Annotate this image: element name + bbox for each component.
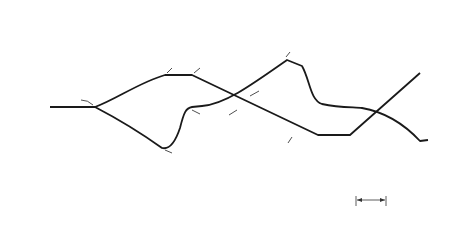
torque-curve xyxy=(50,73,420,135)
arrow-c-torque-icon xyxy=(194,68,200,73)
time-scale-marker xyxy=(356,196,386,206)
chart-canvas xyxy=(0,0,459,226)
arrow-a-icon xyxy=(81,100,93,105)
arrow-c-distortion-icon xyxy=(192,110,200,114)
arrow-b2-distortion-icon xyxy=(286,52,290,57)
arrow-d-distortion-icon xyxy=(229,110,237,115)
distortion-curve xyxy=(95,60,428,148)
arrow-b2-torque-icon xyxy=(288,137,292,143)
arrow-b-torque-icon xyxy=(167,68,172,73)
arrow-d-torque-icon xyxy=(250,91,259,96)
arrow-b-distortion-icon xyxy=(165,150,172,153)
